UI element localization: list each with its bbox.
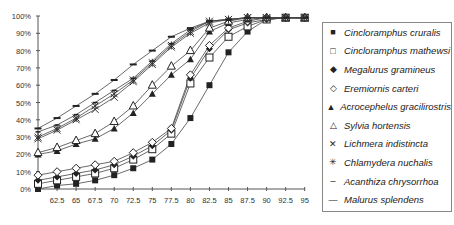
legend-marker-icon: — (326, 195, 340, 205)
legend-item: ■Cincloramphus cruralis (323, 23, 451, 42)
x-tick-label: 90 (262, 196, 270, 205)
legend-marker-icon: △ (326, 120, 340, 130)
x-tick-label: 72.5 (126, 196, 141, 205)
y-tick-label: 70% (16, 64, 31, 73)
x-tick-label: 77.5 (164, 196, 179, 205)
x-tick-label: 65 (72, 196, 80, 205)
legend-label: Acanthiza chrysorrhoa (344, 176, 439, 187)
series-line (38, 18, 305, 175)
x-tick-label: 85 (224, 196, 232, 205)
legend-item: ◇Eremiornis carteri (323, 79, 451, 98)
legend-item: △Sylvia hortensis (323, 116, 451, 135)
legend-marker-icon: ▲ (326, 102, 336, 112)
chart: 0%10%20%30%40%50%60%70%80%90%100%62.5656… (0, 0, 454, 225)
legend-marker-icon: □ (326, 46, 340, 56)
legend-label: Lichmera indistincta (344, 138, 428, 149)
legend-label: Megalurus gramineus (344, 64, 435, 75)
y-tick-label: 100% (12, 12, 32, 21)
legend-marker-icon: ✳ (326, 157, 340, 167)
legend-marker-icon: ◇ (326, 83, 340, 93)
y-tick-label: 80% (16, 47, 31, 56)
legend-item: —Malurus splendens (323, 190, 451, 209)
legend-marker-icon: – (326, 176, 340, 186)
legend-item: –Acanthiza chrysorrhoa (323, 172, 451, 191)
x-tick-label: 92.5 (278, 196, 293, 205)
legend-label: Sylvia hortensis (344, 120, 411, 131)
legend-marker-icon: ✕ (326, 139, 340, 149)
legend-item: ✕Lichmera indistincta (323, 135, 451, 154)
y-tick-label: 90% (16, 29, 31, 38)
legend-marker-icon: ■ (326, 27, 340, 37)
x-tick-label: 87.5 (240, 196, 255, 205)
legend-label: Acrocephelus gracilirostris (340, 101, 451, 112)
legend-label: Cincloramphus mathewsi (344, 45, 450, 56)
legend-item: ✳Chlamydera nuchalis (323, 153, 451, 172)
legend-item: ▲Acrocephelus gracilirostris (323, 97, 451, 116)
y-tick-label: 30% (16, 133, 31, 142)
y-tick-label: 40% (16, 116, 31, 125)
x-tick-label: 67.5 (88, 196, 103, 205)
x-tick-label: 62.5 (50, 196, 65, 205)
y-tick-label: 60% (16, 81, 31, 90)
legend-label: Eremiornis carteri (344, 83, 418, 94)
legend-label: Malurus splendens (344, 194, 424, 205)
x-tick-label: 70 (110, 196, 118, 205)
y-tick-label: 20% (16, 150, 31, 159)
y-tick-label: 10% (16, 168, 31, 177)
y-tick-label: 0% (20, 185, 31, 194)
y-tick-label: 50% (16, 99, 31, 108)
legend-marker-icon: ◆ (326, 64, 340, 74)
x-tick-label: 95 (301, 196, 309, 205)
legend: ■Cincloramphus cruralis□Cincloramphus ma… (322, 22, 452, 212)
legend-item: □Cincloramphus mathewsi (323, 42, 451, 61)
x-tick-label: 82.5 (202, 196, 217, 205)
legend-item: ◆Megalurus gramineus (323, 60, 451, 79)
legend-label: Chlamydera nuchalis (344, 157, 433, 168)
legend-label: Cincloramphus cruralis (344, 27, 441, 38)
x-tick-label: 75 (148, 196, 156, 205)
x-tick-label: 80 (186, 196, 194, 205)
